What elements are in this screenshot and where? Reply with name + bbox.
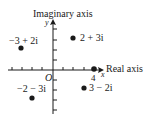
point-neg2-minus-3i — [29, 95, 34, 100]
point-2-plus-3i — [70, 35, 75, 40]
point-4 — [91, 66, 97, 72]
label-neg3-plus-2i: −3 + 2i — [9, 36, 38, 46]
label-neg2-minus-3i: −2 − 3i — [17, 84, 46, 94]
point-3-minus-2i — [81, 85, 86, 90]
origin-label: O — [45, 73, 52, 83]
imaginary-axis-label: Imaginary axis — [33, 9, 93, 19]
point-neg3-plus-2i — [18, 45, 23, 50]
y-variable-label: y — [45, 18, 49, 28]
label-3-minus-2i: 3 − 2i — [89, 83, 112, 93]
real-axis-label: Real axis — [106, 64, 143, 74]
label-2-plus-3i: 2 + 3i — [80, 33, 103, 43]
x-variable-label: x — [101, 70, 105, 80]
